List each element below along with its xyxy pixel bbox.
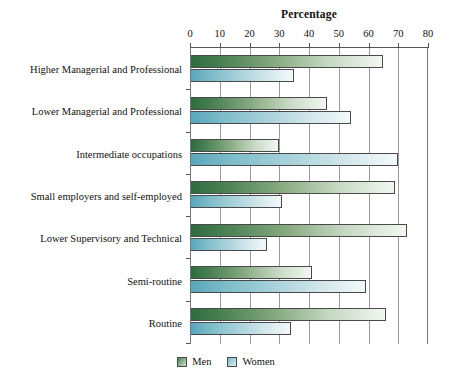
legend-label-men: Men bbox=[192, 356, 211, 367]
bar-men bbox=[190, 181, 395, 194]
category-label-4: Lower Supervisory and Technical bbox=[40, 233, 182, 244]
bar-women bbox=[190, 111, 351, 124]
y-axis-line bbox=[190, 48, 191, 344]
category-label-5: Semi-routine bbox=[127, 275, 182, 286]
x-tick-label-40: 40 bbox=[304, 28, 315, 39]
x-tick-label-50: 50 bbox=[334, 28, 345, 39]
x-tick-label-20: 20 bbox=[244, 28, 255, 39]
men-color-swatch bbox=[177, 357, 187, 367]
bar-women bbox=[190, 153, 398, 166]
x-tick-label-70: 70 bbox=[393, 28, 404, 39]
bar-group bbox=[190, 133, 428, 175]
bar-group bbox=[190, 48, 428, 90]
bar-women bbox=[190, 195, 282, 208]
legend-label-women: Women bbox=[242, 356, 274, 367]
legend-item-men[interactable]: Men bbox=[177, 356, 211, 367]
category-labels: Higher Managerial and ProfessionalLower … bbox=[0, 48, 186, 344]
x-tick-label-60: 60 bbox=[363, 28, 374, 39]
legend-item-women[interactable]: Women bbox=[227, 356, 274, 367]
x-tick-label-0: 0 bbox=[187, 28, 192, 39]
x-tick-label-10: 10 bbox=[215, 28, 226, 39]
bar-group bbox=[190, 217, 428, 259]
bar-group bbox=[190, 175, 428, 217]
bar-women bbox=[190, 238, 267, 251]
bar-women bbox=[190, 322, 291, 335]
category-label-3: Small employers and self-employed bbox=[31, 191, 182, 202]
bar-group bbox=[190, 302, 428, 344]
chart-title: Percentage bbox=[190, 8, 428, 20]
women-color-swatch bbox=[227, 357, 237, 367]
bar-group bbox=[190, 90, 428, 132]
bar-men bbox=[190, 266, 312, 279]
bar-women bbox=[190, 280, 366, 293]
plot-area bbox=[190, 48, 428, 344]
bar-chart: Percentage 01020304050607080 Higher Mana… bbox=[0, 0, 452, 381]
bar-men bbox=[190, 308, 386, 321]
x-tick-mark-80 bbox=[428, 43, 429, 48]
bar-women bbox=[190, 69, 294, 82]
category-label-2: Intermediate occupations bbox=[76, 148, 182, 159]
bar-men bbox=[190, 139, 279, 152]
category-label-0: Higher Managerial and Professional bbox=[30, 64, 182, 75]
x-axis-tick-labels: 01020304050607080 bbox=[190, 28, 428, 42]
category-label-1: Lower Managerial and Professional bbox=[32, 106, 182, 117]
category-label-6: Routine bbox=[149, 317, 182, 328]
bar-men bbox=[190, 55, 383, 68]
x-tick-label-80: 80 bbox=[423, 28, 434, 39]
bar-men bbox=[190, 97, 327, 110]
bar-men bbox=[190, 224, 407, 237]
bar-group bbox=[190, 259, 428, 301]
x-tick-label-30: 30 bbox=[274, 28, 285, 39]
chart-legend: MenWomen bbox=[0, 356, 452, 367]
